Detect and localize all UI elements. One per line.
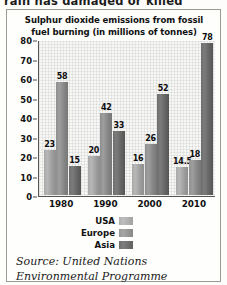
legend-item-asia[interactable]: Asia [13,239,133,251]
y-axis-tick-mark [33,158,37,159]
bar-value-label: 78 [202,33,213,42]
y-axis-tick-label: 30 [20,134,32,144]
chart-title-line-2: fuel burning (in millions of tonnes) [31,27,196,37]
x-axis-tick-label: 2010 [182,199,206,209]
page-root: rain has damaged or killed Sulphur dioxi… [0,0,227,285]
bar-europe-2000[interactable]: 26 [145,144,157,195]
cut-off-body-text: rain has damaged or killed [4,0,223,6]
y-axis-tick-label: 0 [26,192,32,202]
legend-item-usa[interactable]: USA [13,215,133,227]
bar-asia-1980[interactable]: 15 [69,166,81,195]
bar-group: 162652 [129,41,173,195]
plot-wrapper: 80706050403020100 23581520423316265214.5… [13,41,216,213]
bar-europe-2010[interactable]: 18 [189,160,201,195]
bar-value-label: 15 [69,156,80,165]
bar-group: 204233 [84,41,128,195]
x-axis-tick-label: 2000 [137,199,161,209]
y-axis: 80706050403020100 [13,41,37,197]
x-axis-tick-label: 1990 [93,199,117,209]
source-note: Source: United Nations Environmental Pro… [16,255,216,284]
y-axis-tick-label: 80 [20,36,32,46]
y-axis-tick-label: 20 [20,153,32,163]
bar-value-label: 23 [44,140,55,149]
legend-item-label: Asia [94,240,115,250]
bar-group: 235815 [40,41,84,195]
x-axis: 1980199020002010 [38,199,215,213]
y-axis-tick-label: 60 [20,75,32,85]
chart-title-line-1: Sulphur dioxide emissions from fossil [25,15,203,25]
legend-item-europe[interactable]: Europe [13,227,133,239]
bar-asia-1990[interactable]: 33 [113,131,125,195]
y-axis-tick-label: 70 [20,56,32,66]
legend-item-label: USA [95,216,115,226]
source-line-1: Source: United Nations [16,255,216,270]
bar-usa-2010[interactable]: 14.5 [176,167,188,195]
y-axis-tick-mark [33,99,37,100]
bar-usa-1980[interactable]: 23 [44,150,56,195]
bar-asia-2000[interactable]: 52 [157,94,169,195]
bar-value-label: 26 [145,134,156,143]
y-axis-tick-mark [33,119,37,120]
y-axis-tick-label: 10 [20,173,32,183]
bar-value-label: 58 [57,72,68,81]
figure-box: Sulphur dioxide emissions from fossil fu… [6,9,221,282]
bar-usa-2000[interactable]: 16 [132,164,144,195]
legend-item-label: Europe [81,228,115,238]
y-axis-tick-mark [33,197,37,198]
chart-title: Sulphur dioxide emissions from fossil fu… [15,15,213,38]
y-axis-tick-mark [33,138,37,139]
chart-legend: USAEuropeAsia [13,215,133,251]
legend-color-swatch [119,217,133,225]
y-axis-tick-mark [33,41,37,42]
y-axis-tick-label: 50 [20,95,32,105]
plot-area: 23581520423316265214.51878 [38,41,215,197]
legend-color-swatch [119,229,133,237]
bar-europe-1980[interactable]: 58 [56,82,68,195]
bar-group: 14.51878 [173,41,217,195]
bar-asia-2010[interactable]: 78 [201,43,213,195]
legend-color-swatch [119,241,133,249]
y-axis-tick-mark [33,80,37,81]
bar-usa-1990[interactable]: 20 [88,156,100,195]
bar-value-label: 18 [190,150,201,159]
bar-value-label: 33 [114,121,125,130]
source-line-2: Environmental Programme [16,270,216,285]
y-axis-tick-label: 40 [20,114,32,124]
bar-value-label: 20 [89,146,100,155]
y-axis-tick-mark [33,60,37,61]
bars-layer: 23581520423316265214.51878 [40,41,215,195]
bar-value-label: 42 [101,103,112,112]
x-axis-tick-label: 1980 [49,199,73,209]
bar-value-label: 16 [133,154,144,163]
bar-value-label: 52 [158,84,169,93]
y-axis-tick-mark [33,177,37,178]
bar-europe-1990[interactable]: 42 [100,113,112,195]
